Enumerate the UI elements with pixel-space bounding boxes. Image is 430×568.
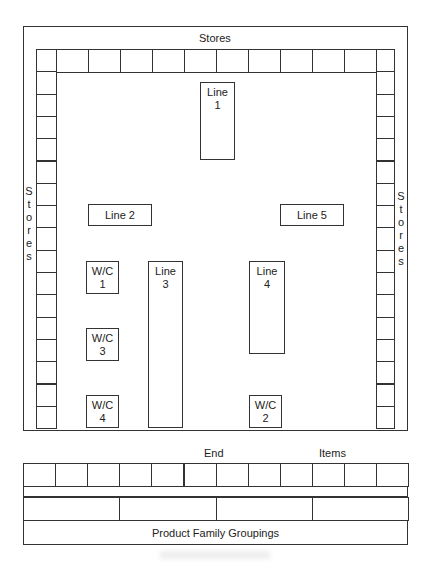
storage-cell: [376, 183, 395, 206]
storage-cell: [376, 227, 395, 250]
storage-cell: [119, 497, 216, 521]
storage-cell: [56, 49, 89, 73]
line-3-label: Line: [149, 265, 182, 278]
work-center-4: W/C 4: [86, 395, 119, 428]
storage-cell: [312, 49, 345, 73]
stores-left-label: S t o r e s: [24, 185, 34, 263]
storage-cell: [120, 49, 153, 73]
line-2-label: Line 2: [105, 209, 135, 222]
wc-3-number: 3: [87, 345, 118, 358]
storage-cell: [376, 361, 395, 384]
figure-caption: [160, 551, 270, 559]
storage-cell: [36, 49, 57, 72]
line-2: Line 2: [88, 204, 152, 226]
storage-cell: [36, 361, 57, 384]
storage-cell: [184, 49, 217, 73]
storage-cell: [280, 49, 313, 73]
storage-cell: [36, 406, 57, 429]
wc-1-number: 1: [87, 278, 118, 291]
letter: r: [24, 224, 34, 237]
wc-4-label: W/C: [87, 399, 118, 412]
work-center-2: W/C 2: [249, 395, 282, 428]
storage-cell: [36, 384, 57, 407]
items-label: Items: [319, 447, 346, 459]
line-3-number: 3: [149, 278, 182, 291]
storage-cell: [184, 463, 217, 487]
storage-cell: [36, 294, 57, 317]
storage-cell: [376, 463, 409, 487]
storage-cell: [152, 49, 185, 73]
letter: s: [24, 250, 34, 263]
storage-cell: [376, 138, 395, 161]
storage-cell: [36, 183, 57, 206]
wc-2-label: W/C: [250, 399, 281, 412]
storage-cell: [119, 463, 152, 487]
letter: t: [24, 198, 34, 211]
end-label: End: [204, 447, 224, 459]
line-3: Line 3: [148, 261, 183, 428]
storage-cell: [216, 463, 249, 487]
storage-cell: [55, 463, 88, 487]
letter: S: [396, 190, 406, 203]
groupings-label: Product Family Groupings: [152, 527, 279, 539]
storage-cell: [23, 463, 56, 487]
storage-cell: [376, 384, 395, 407]
product-family-groupings: Product Family Groupings: [23, 520, 408, 545]
storage-cell: [312, 463, 345, 487]
storage-cell: [248, 49, 281, 73]
storage-cell: [248, 463, 281, 487]
line-1-number: 1: [201, 99, 234, 112]
storage-cell: [376, 116, 395, 139]
storage-cell: [376, 294, 395, 317]
storage-cell: [36, 138, 57, 161]
line-5: Line 5: [280, 204, 344, 226]
storage-cell: [376, 94, 395, 117]
wc-1-label: W/C: [87, 265, 118, 278]
letter: e: [396, 242, 406, 255]
line-5-label: Line 5: [297, 209, 327, 222]
line-1-label: Line: [201, 86, 234, 99]
storage-cell: [88, 49, 121, 73]
letter: s: [396, 255, 406, 268]
storage-cell: [36, 94, 57, 117]
line-4: Line 4: [249, 261, 285, 354]
storage-cell: [36, 71, 57, 94]
storage-cell: [376, 272, 395, 295]
storage-cell: [36, 205, 57, 228]
wc-3-label: W/C: [87, 332, 118, 345]
storage-cell: [376, 339, 395, 362]
line-1: Line 1: [200, 82, 235, 160]
storage-cell: [376, 205, 395, 228]
storage-cell: [344, 49, 377, 73]
work-center-1: W/C 1: [86, 261, 119, 294]
storage-cell: [312, 497, 409, 521]
storage-cell: [36, 161, 57, 184]
storage-cell: [36, 227, 57, 250]
letter: r: [396, 229, 406, 242]
storage-cell: [376, 71, 395, 94]
letter: t: [396, 203, 406, 216]
storage-cell: [36, 116, 57, 139]
storage-cell: [36, 272, 57, 295]
letter: e: [24, 237, 34, 250]
storage-cell: [36, 339, 57, 362]
storage-cell: [216, 49, 249, 73]
letter: o: [396, 216, 406, 229]
wc-4-number: 4: [87, 412, 118, 425]
letter: S: [24, 185, 34, 198]
storage-cell: [151, 463, 184, 487]
storage-cell: [376, 250, 395, 273]
wc-2-number: 2: [250, 412, 281, 425]
storage-cell: [376, 161, 395, 184]
letter: o: [24, 211, 34, 224]
stores-top-label: Stores: [199, 32, 231, 44]
storage-cell: [36, 250, 57, 273]
storage-cell: [280, 463, 313, 487]
storage-cell: [36, 317, 57, 340]
spacer-row: [23, 486, 408, 497]
storage-cell: [376, 317, 395, 340]
storage-cell: [344, 463, 377, 487]
storage-cell: [216, 497, 313, 521]
line-4-number: 4: [250, 278, 284, 291]
work-center-3: W/C 3: [86, 328, 119, 361]
